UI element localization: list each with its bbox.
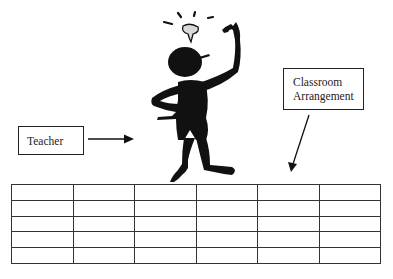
grid-cell	[319, 216, 381, 232]
grid-cell	[258, 232, 320, 248]
grid-cell	[73, 185, 135, 201]
grid-cell	[73, 216, 135, 232]
grid-cell	[319, 232, 381, 248]
grid-cell	[258, 185, 320, 201]
grid-cell	[12, 200, 74, 216]
teacher-arrow	[88, 135, 134, 144]
grid-cell	[258, 248, 320, 264]
light-bulb-icon	[183, 24, 199, 42]
grid-row	[12, 232, 381, 248]
idea-rays-icon	[164, 12, 213, 24]
grid-cell	[196, 216, 258, 232]
grid-cell	[196, 200, 258, 216]
grid-cell	[135, 216, 197, 232]
grid-cell	[12, 248, 74, 264]
grid-cell	[319, 248, 381, 264]
grid-cell	[73, 248, 135, 264]
grid-cell	[12, 185, 74, 201]
grid-cell	[135, 185, 197, 201]
grid-cell	[12, 216, 74, 232]
grid-row	[12, 216, 381, 232]
grid-cell	[135, 248, 197, 264]
teacher-figure	[151, 22, 240, 182]
grid-row	[12, 248, 381, 264]
classroom-arrow	[288, 115, 309, 172]
grid-cell	[196, 248, 258, 264]
grid-cell	[12, 232, 74, 248]
teacher-label-text: Teacher	[27, 135, 63, 147]
grid-cell	[196, 185, 258, 201]
grid-cell	[73, 232, 135, 248]
grid-row	[12, 200, 381, 216]
grid-cell	[319, 185, 381, 201]
grid-cell	[196, 232, 258, 248]
grid-cell	[135, 232, 197, 248]
classroom-label-line2: Arrangement	[293, 89, 363, 103]
classroom-grid	[11, 184, 381, 264]
grid-cell	[319, 200, 381, 216]
grid-cell	[135, 200, 197, 216]
grid-cell	[258, 216, 320, 232]
teacher-label: Teacher	[18, 126, 84, 155]
grid-cell	[258, 200, 320, 216]
grid-cell	[73, 200, 135, 216]
grid-row	[12, 185, 381, 201]
classroom-arrangement-label: Classroom Arrangement	[283, 68, 364, 110]
classroom-label-line1: Classroom	[293, 75, 363, 89]
